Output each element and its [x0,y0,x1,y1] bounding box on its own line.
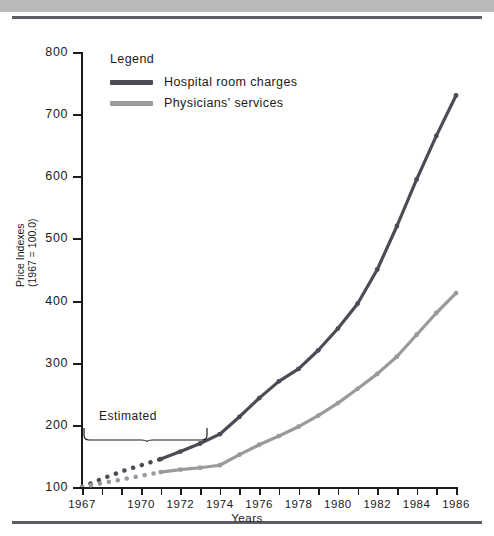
x-tick-label: 1984 [403,498,431,510]
data-point [355,301,360,306]
data-point [296,424,301,429]
x-tick [180,487,182,495]
x-tick [239,487,241,495]
x-tick [161,487,163,495]
data-point [414,177,419,182]
legend-label-physicians: Physicians' services [164,96,283,110]
series-line-physicians' [161,293,456,472]
x-tick-label: 1972 [167,498,195,510]
series-estimated-physicians' [82,472,161,487]
y-tick-label: 500 [45,231,68,245]
top-band [0,0,494,12]
y-tick [73,301,82,303]
top-rule [12,16,482,19]
y-tick [73,363,82,365]
data-point [414,332,419,337]
x-tick [417,487,419,495]
y-axis-title-line1: Price Indexes [14,218,26,287]
data-point [276,379,281,384]
x-tick-label: 1980 [324,498,352,510]
y-tick [73,425,82,427]
x-axis-line [81,487,457,489]
chart-figure: Price Indexes (1967 = 100.0) 10020030040… [0,0,494,536]
y-tick [73,52,82,54]
data-point [158,457,163,462]
x-tick [200,487,202,495]
x-tick-label: 1976 [245,498,273,510]
data-point [395,354,400,359]
x-tick-label: 1967 [68,498,96,510]
data-point [217,463,222,468]
x-tick [397,487,399,495]
y-tick-label: 600 [45,169,68,183]
legend-swatch-physicians [110,101,153,106]
x-tick [299,487,301,495]
x-tick-label: 1982 [363,498,391,510]
legend-title: Legend [110,52,297,66]
legend-swatch-hospital [110,80,153,85]
x-tick [338,487,340,495]
y-tick-label: 400 [45,294,68,308]
x-tick [358,487,360,495]
data-point [316,413,321,418]
data-point [335,326,340,331]
data-point [395,224,400,229]
x-tick [121,487,123,495]
data-point [355,386,360,391]
x-tick [259,487,261,495]
data-point [198,465,203,470]
x-tick-label: 1986 [442,498,470,510]
data-point [257,442,262,447]
x-tick [279,487,281,495]
data-point [316,348,321,353]
data-point [454,93,459,98]
data-point [335,401,340,406]
x-tick [141,487,143,495]
data-point [178,467,183,472]
data-point [375,267,380,272]
x-tick [377,487,379,495]
x-tick-label: 1970 [127,498,155,510]
legend-item-hospital: Hospital room charges [110,75,297,89]
y-tick [73,238,82,240]
y-tick [73,487,82,489]
x-tick-label: 1978 [285,498,313,510]
legend-label-hospital: Hospital room charges [164,75,297,89]
estimated-label: Estimated [99,409,157,423]
y-tick-label: 700 [45,107,68,121]
x-tick [318,487,320,495]
y-axis-title-line2: (1967 = 100.0) [26,218,38,287]
data-point [434,311,439,316]
series-estimated-hospital [82,459,161,487]
data-point [217,432,222,437]
y-axis-title: Price Indexes (1967 = 100.0) [14,218,38,287]
data-point [158,470,163,475]
series-line-hospital [161,96,456,460]
data-point [257,396,262,401]
data-point [296,367,301,372]
legend-item-physicians: Physicians' services [110,96,297,110]
y-tick-label: 100 [45,480,68,494]
x-tick [436,487,438,495]
data-point [178,449,183,454]
data-point [237,452,242,457]
x-tick [102,487,104,495]
data-point [276,434,281,439]
data-point [434,133,439,138]
y-tick [73,176,82,178]
y-tick-label: 300 [45,356,68,370]
data-point [375,372,380,377]
y-tick-label: 800 [45,45,68,59]
x-tick [456,487,458,495]
data-point [237,414,242,419]
x-tick-label: 1974 [206,498,234,510]
legend: Legend Hospital room charges Physicians'… [110,52,297,117]
data-point [454,291,459,296]
y-tick [73,114,82,116]
estimated-brace-icon [83,427,213,443]
x-axis-title: Years [0,512,494,524]
x-tick [82,487,84,495]
x-tick [220,487,222,495]
y-tick-label: 200 [45,418,68,432]
